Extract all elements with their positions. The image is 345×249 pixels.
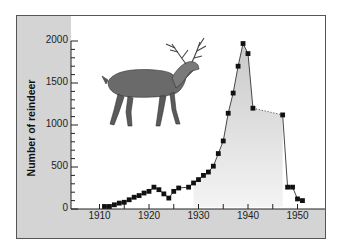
x-tick-label: 1920 [134,210,164,221]
data-point [216,151,221,156]
y-tick-label: 1500 [28,76,68,87]
data-point [147,189,152,194]
data-point [137,193,142,198]
data-point [201,173,206,178]
bottom-band [17,209,325,238]
data-point [142,191,147,196]
data-point [241,41,246,46]
data-point [300,198,305,203]
data-point [221,139,226,144]
data-point [166,196,171,201]
data-point [246,51,251,56]
data-point [117,201,122,206]
x-tick-label: 1940 [233,210,263,221]
data-point [112,202,117,207]
data-point [236,64,241,69]
y-tick-label: 1000 [28,118,68,129]
data-point [211,164,216,169]
data-point [176,186,181,191]
data-point [295,197,300,202]
data-point [161,191,166,196]
y-tick-label: 500 [28,160,68,171]
data-point [280,113,285,118]
y-tick-label: 2000 [28,34,68,45]
data-point [186,185,191,190]
data-point [122,200,127,205]
data-point [290,185,295,190]
data-point [196,177,201,182]
data-point [171,189,176,194]
x-tick-label: 1930 [184,210,214,221]
data-point [251,106,256,111]
data-point [107,204,112,209]
data-point [132,195,137,200]
x-tick-label: 1910 [85,210,115,221]
data-point [127,197,132,202]
x-tick-label: 1950 [283,210,313,221]
data-point [157,187,162,192]
data-point [152,185,157,190]
data-point [226,111,231,116]
data-point [285,185,290,190]
data-point [206,170,211,175]
y-tick-label: 0 [28,202,68,213]
data-point [102,204,107,209]
reindeer-illustration [102,38,206,126]
data-point [191,181,196,186]
data-point [231,91,236,96]
